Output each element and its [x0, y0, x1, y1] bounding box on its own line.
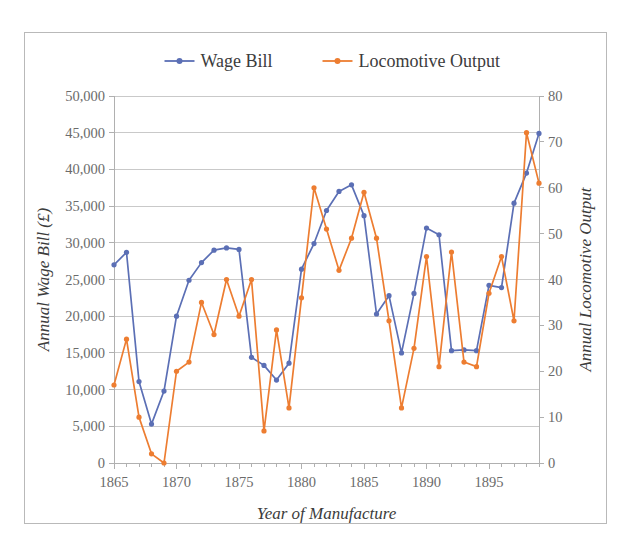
data-point-marker	[361, 213, 366, 218]
y2-tick-label: 10	[548, 409, 563, 425]
data-point-marker	[399, 405, 404, 410]
data-point-marker	[199, 300, 204, 305]
data-point-marker	[274, 327, 279, 332]
data-point-marker	[336, 189, 341, 194]
axis-lines	[109, 96, 544, 469]
data-point-marker	[536, 181, 541, 186]
legend-swatch-marker	[335, 58, 341, 64]
data-point-marker	[161, 460, 166, 465]
data-point-marker	[111, 262, 116, 267]
x-tick-label: 1890	[412, 474, 441, 490]
data-point-marker	[424, 226, 429, 231]
data-point-marker	[249, 277, 254, 282]
data-point-marker	[136, 379, 141, 384]
y-tick-label: 25,000	[65, 272, 105, 288]
y2-tick-label: 30	[548, 317, 563, 333]
data-point-marker	[349, 182, 354, 187]
data-point-marker	[424, 254, 429, 259]
y-tick-label: 45,000	[65, 125, 105, 141]
data-point-marker	[174, 369, 179, 374]
data-point-marker	[211, 332, 216, 337]
data-point-marker	[161, 388, 166, 393]
y-tick-label: 5,000	[72, 418, 105, 434]
y2-axis-title: Annual Locomotive Output	[576, 186, 595, 372]
x-tick-label: 1880	[287, 474, 316, 490]
x-tick-label: 1885	[350, 474, 379, 490]
chart-frame: Wage BillLocomotive Output 05,00010,0001…	[24, 32, 607, 524]
y-tick-label: 20,000	[65, 308, 105, 324]
x-tick-label: 1875	[225, 474, 254, 490]
data-point-marker	[124, 337, 129, 342]
y-axis-title: Annual Wage Bill (£)	[34, 207, 53, 352]
y2-tick-label: 0	[548, 455, 555, 471]
data-point-marker	[536, 131, 541, 136]
data-point-marker	[436, 364, 441, 369]
y-axis-tick-labels: 05,00010,00015,00020,00025,00030,00035,0…	[65, 88, 105, 471]
x-axis-tick-labels: 1865187018751880188518901895	[100, 474, 504, 490]
data-point-marker	[174, 314, 179, 319]
data-point-marker	[336, 268, 341, 273]
y2-tick-label: 20	[548, 363, 563, 379]
series-wage-bill	[111, 131, 541, 427]
data-point-marker	[474, 364, 479, 369]
data-point-marker	[311, 185, 316, 190]
data-point-marker	[261, 428, 266, 433]
data-point-marker	[236, 314, 241, 319]
x-tick-label: 1895	[475, 474, 504, 490]
data-point-marker	[324, 226, 329, 231]
data-point-marker	[386, 293, 391, 298]
y-tick-label: 30,000	[65, 235, 105, 251]
data-point-marker	[411, 291, 416, 296]
dual-axis-line-chart: Wage BillLocomotive Output 05,00010,0001…	[25, 33, 608, 525]
data-point-marker	[461, 359, 466, 364]
data-point-marker	[449, 348, 454, 353]
x-tick-label: 1865	[100, 474, 129, 490]
data-point-marker	[136, 415, 141, 420]
data-point-marker	[511, 201, 516, 206]
series-polyline	[114, 133, 539, 424]
y-tick-label: 10,000	[65, 382, 105, 398]
data-point-marker	[349, 236, 354, 241]
legend-entry-locomotive-output[interactable]: Locomotive Output	[323, 51, 500, 71]
data-point-marker	[486, 291, 491, 296]
series-polyline	[114, 133, 539, 463]
legend-entry-label: Wage Bill	[201, 51, 273, 71]
data-point-marker	[249, 355, 254, 360]
y-tick-label: 35,000	[65, 198, 105, 214]
y2-axis-tick-labels: 01020304050607080	[548, 88, 563, 471]
data-point-marker	[186, 278, 191, 283]
data-point-marker	[524, 130, 529, 135]
data-point-marker	[499, 285, 504, 290]
data-point-marker	[186, 359, 191, 364]
data-point-marker	[236, 247, 241, 252]
x-axis-title: Year of Manufacture	[257, 504, 397, 523]
data-point-marker	[299, 295, 304, 300]
data-point-marker	[374, 311, 379, 316]
axis-titles: Year of ManufactureAnnual Wage Bill (£)A…	[34, 186, 595, 523]
data-point-marker	[286, 361, 291, 366]
data-point-marker	[149, 451, 154, 456]
data-point-marker	[274, 377, 279, 382]
data-point-marker	[436, 232, 441, 237]
y2-tick-label: 80	[548, 88, 563, 104]
y2-tick-label: 40	[548, 272, 563, 288]
data-series	[111, 130, 541, 466]
data-point-marker	[499, 254, 504, 259]
data-point-marker	[261, 363, 266, 368]
data-point-marker	[386, 318, 391, 323]
data-point-marker	[449, 249, 454, 254]
data-point-marker	[311, 241, 316, 246]
x-tick-label: 1870	[162, 474, 191, 490]
legend-entry-label: Locomotive Output	[359, 51, 500, 71]
data-point-marker	[224, 277, 229, 282]
data-point-marker	[399, 350, 404, 355]
data-point-marker	[411, 346, 416, 351]
data-point-marker	[124, 250, 129, 255]
y2-tick-label: 70	[548, 134, 563, 150]
legend-entry-wage-bill[interactable]: Wage Bill	[165, 51, 273, 71]
gridlines	[114, 96, 539, 463]
chart-page: Wage BillLocomotive Output 05,00010,0001…	[0, 0, 631, 558]
y-tick-label: 0	[98, 455, 105, 471]
legend-swatch-marker	[177, 58, 183, 64]
data-point-marker	[361, 190, 366, 195]
